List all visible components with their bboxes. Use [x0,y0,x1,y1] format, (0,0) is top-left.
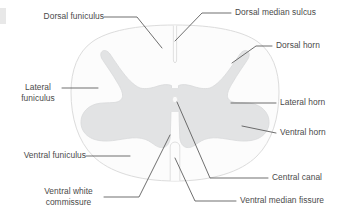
label-ventral-horn: Ventral horn [280,127,326,138]
label-dorsal-horn: Dorsal horn [276,40,320,51]
label-lateral-funiculus: Lateral funiculus [14,82,62,103]
label-dorsal-median-sulcus: Dorsal median sulcus [235,7,316,18]
label-ventral-median-fissure: Ventral median fissure [240,195,324,206]
label-lateral-horn: Lateral horn [280,97,325,108]
label-ventral-white-commissure-line1: Ventral white [44,186,93,196]
dorsal-median-sulcus-shape [173,26,176,63]
label-lateral-funiculus-line1: Lateral [25,82,51,92]
spinal-cord-diagram-figure: Dorsal funiculus Dorsal median sulcus Do… [0,0,351,220]
label-lateral-funiculus-line2: funiculus [21,93,55,103]
ventral-median-fissure-shape [170,142,180,181]
label-ventral-white-commissure: Ventral white commissure [33,186,104,207]
label-dorsal-funiculus: Dorsal funiculus [18,11,104,22]
label-ventral-white-commissure-line2: commissure [46,197,92,207]
label-ventral-funiculus: Ventral funiculus [14,150,86,161]
label-central-canal: Central canal [272,172,322,183]
